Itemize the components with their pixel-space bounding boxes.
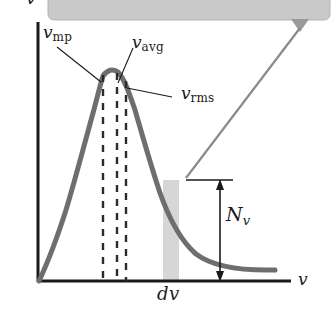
- vrms-label: vrms: [181, 83, 214, 105]
- y-axis-label: v: [26, 0, 36, 8]
- vmp-label: vmp: [43, 22, 72, 44]
- figure-canvas: [0, 0, 334, 309]
- distribution-curve: [39, 70, 275, 281]
- vavg-leader-line: [118, 48, 133, 83]
- x-axis-label: v: [298, 269, 308, 289]
- vmp-base: v: [43, 22, 53, 42]
- vrms-subscript: rms: [191, 91, 215, 105]
- vmp-leader-line: [57, 47, 101, 82]
- vavg-subscript: avg: [142, 40, 164, 54]
- callout-box: [48, 0, 330, 32]
- speed-distribution-figure: v v vmp vavg vrms Nv dv: [0, 0, 334, 309]
- vrms-base: v: [181, 83, 191, 103]
- nv-subscript: v: [243, 213, 251, 228]
- dv-label: dv: [157, 283, 180, 304]
- vmp-subscript: mp: [53, 30, 72, 44]
- vrms-leader-line: [127, 88, 172, 97]
- nv-label: Nv: [226, 203, 250, 228]
- nv-base: N: [226, 203, 243, 225]
- vavg-label: vavg: [132, 32, 164, 54]
- vavg-base: v: [132, 32, 142, 52]
